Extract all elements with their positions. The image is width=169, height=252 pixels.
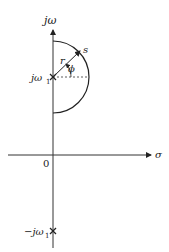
angle-label: ϕ <box>68 63 75 74</box>
lower-pole-label: −jω <box>24 226 44 237</box>
s-plane-diagram: jω σ 0 jω 1 −jω 1 r ϕ s <box>0 0 169 252</box>
radius-label: r <box>60 55 66 66</box>
origin-label: 0 <box>43 158 49 169</box>
imaginary-axis-label: jω <box>41 14 56 27</box>
upper-pole-label: jω <box>29 72 42 83</box>
upper-pole-subscript: 1 <box>46 78 50 86</box>
real-axis-label: σ <box>155 149 163 160</box>
lower-pole-subscript: 1 <box>45 232 49 240</box>
point-s-label: s <box>83 44 88 55</box>
